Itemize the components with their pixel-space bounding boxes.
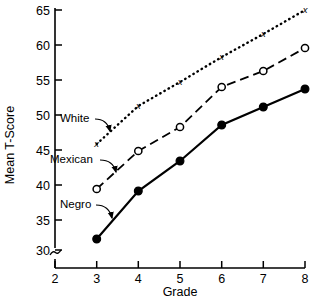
- annotation-white-leader-icon: [95, 119, 110, 131]
- series-white-marker-grade-5: x: [177, 76, 184, 87]
- x-tick-label-2: 2: [52, 272, 59, 286]
- annotation-mexican: Mexican: [50, 153, 116, 172]
- series-negro-point-grade-4: [134, 187, 142, 195]
- series-negro: [93, 85, 309, 243]
- y-tick-label-60: 60: [36, 39, 50, 53]
- series-white: x x x x x x: [93, 4, 308, 149]
- x-tick-label-6: 6: [218, 272, 225, 286]
- series-white-marker-grade-6: x: [218, 51, 225, 62]
- series-negro-point-grade-6: [218, 121, 226, 129]
- annotation-negro-leader-icon: [96, 205, 112, 218]
- mean-t-score-by-grade-line-chart: 65 60 55 50 45 40 35 30 2 3 4 5 6 7 8: [0, 0, 322, 299]
- series-mexican-point-grade-7: [260, 67, 267, 74]
- series-white-marker-grade-7: x: [260, 28, 267, 39]
- series-mexican-point-grade-8: [301, 44, 308, 51]
- series-mexican-point-grade-6: [218, 83, 225, 90]
- x-tick-label-7: 7: [260, 272, 267, 286]
- annotation-negro-label: Negro: [60, 198, 91, 210]
- series-negro-point-grade-5: [176, 157, 184, 165]
- series-white-marker-grade-8: x: [302, 4, 309, 15]
- series-white-line: [97, 10, 305, 144]
- chart-figure: 65 60 55 50 45 40 35 30 2 3 4 5 6 7 8: [0, 0, 322, 299]
- axis-lines: [50, 8, 305, 268]
- annotation-mexican-leader-icon: [100, 160, 116, 172]
- y-axis-title: Mean T-Score: [3, 106, 17, 184]
- annotation-mexican-label: Mexican: [50, 153, 93, 165]
- y-axis-tick-labels: 65 60 55 50 45 40 35 30: [36, 4, 50, 258]
- annotation-white-label: White: [60, 112, 89, 124]
- series-mexican-point-grade-5: [176, 123, 183, 130]
- y-tick-label-65: 65: [36, 4, 50, 18]
- y-tick-label-55: 55: [36, 74, 50, 88]
- series-negro-line: [97, 89, 305, 239]
- x-axis-tick-labels: 2 3 4 5 6 7 8: [52, 272, 309, 286]
- y-tick-label-40: 40: [36, 179, 50, 193]
- series-white-marker-grade-3: x: [93, 138, 100, 149]
- y-tick-label-35: 35: [36, 214, 50, 228]
- x-tick-label-3: 3: [93, 272, 100, 286]
- annotation-negro: Negro: [60, 198, 112, 218]
- y-tick-label-45: 45: [36, 144, 50, 158]
- x-tick-label-8: 8: [302, 272, 309, 286]
- y-axis-ticks: [55, 10, 62, 250]
- x-tick-label-4: 4: [135, 272, 142, 286]
- series-negro-point-grade-8: [301, 85, 309, 93]
- y-tick-label-30: 30: [36, 244, 50, 258]
- series-negro-point-grade-3: [93, 235, 101, 243]
- series-mexican-point-grade-3: [93, 185, 100, 192]
- annotation-white: White: [60, 112, 110, 131]
- x-axis-title: Grade: [163, 285, 198, 299]
- series-negro-point-grade-7: [259, 103, 267, 111]
- series-mexican-point-grade-4: [135, 147, 142, 154]
- x-tick-label-5: 5: [177, 272, 184, 286]
- y-tick-label-50: 50: [36, 109, 50, 123]
- x-axis-ticks: [55, 261, 305, 268]
